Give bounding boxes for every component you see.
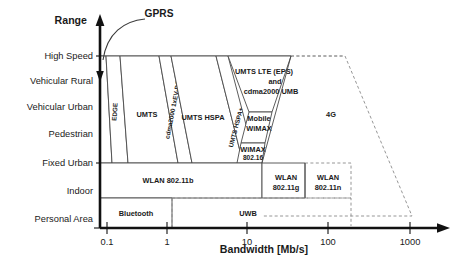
y-tick-vehicular-rural: Vehicular Rural — [30, 76, 93, 86]
region-label-umts-lte-line1: UMTS LTE (EPS) — [235, 67, 294, 76]
region-label-bluetooth: Bluetooth — [119, 209, 154, 218]
region-label-wimax-80216-line2: 802.16 — [243, 154, 264, 161]
region-label-4g: 4G — [326, 110, 336, 119]
region-label-wlan-80211g-line1: WLAN — [275, 173, 297, 182]
region-label-edge: EDGE — [110, 102, 118, 121]
x-tick-0-1: 0.1 — [101, 237, 114, 247]
x-tick-100: 100 — [320, 237, 336, 247]
gprs-callout-leader — [103, 19, 145, 60]
y-tick-pedestrian: Pedestrian — [49, 129, 93, 139]
region-label-umts-lte-line3: cdma2000 UMB — [244, 87, 299, 96]
region-label-wlan-80211b: WLAN 802.11b — [143, 176, 194, 185]
x-tick-10: 10 — [242, 237, 252, 247]
region-label-uwb: UWB — [239, 209, 257, 218]
region-uwb — [172, 198, 351, 228]
x-tick-1: 1 — [164, 237, 169, 247]
wireless-technology-coverage-diagram: GPRS EDGE UMTS cdma2000 1xEV-DO UMTS HSP… — [0, 0, 462, 265]
y-axis-title: Range — [55, 14, 87, 26]
y-tick-indoor: Indoor — [67, 186, 93, 196]
x-axis-title: Bandwidth [Mb/s] — [220, 243, 308, 255]
y-axis-tick-labels: High Speed Vehicular Rural Vehicular Urb… — [27, 51, 94, 224]
region-label-wimax-80216-line1: WiMAX — [240, 145, 265, 154]
region-label-wlan-80211n-line1: WLAN — [317, 173, 339, 182]
region-label-umts: UMTS — [137, 110, 158, 119]
y-tick-personal-area: Personal Area — [35, 214, 94, 224]
region-label-wlan-80211n-line2: 802.11n — [315, 183, 342, 192]
y-tick-vehicular-urban: Vehicular Urban — [27, 102, 93, 112]
y-tick-high-speed: High Speed — [44, 51, 93, 61]
region-label-umts-hspa: UMTS HSPA — [182, 113, 226, 122]
gprs-callout-label: GPRS — [145, 8, 174, 19]
region-label-mobile-wimax-line1: Mobile — [247, 114, 270, 123]
region-label-mobile-wimax-line2: WiMAX — [246, 124, 271, 133]
region-label-umts-lte-line2: and — [268, 77, 282, 86]
x-tick-1000: 1000 — [400, 237, 421, 247]
y-tick-fixed-urban: Fixed Urban — [42, 158, 93, 168]
region-label-wlan-80211g-line2: 802.11g — [273, 183, 300, 192]
